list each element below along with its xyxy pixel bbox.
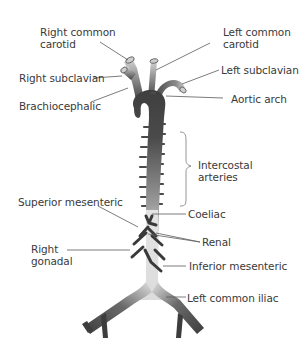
right-common-iliac: [84, 282, 152, 334]
label-left-common-iliac: Left common iliac: [187, 292, 278, 304]
aorta-diagram: Right common carotid Left common carotid…: [0, 0, 301, 352]
label-right-gonadal: Right gonadal: [31, 243, 73, 267]
label-left-common-carotid: Left common carotid: [223, 26, 291, 50]
label-intercostal-arteries: Intercostal arteries: [198, 159, 252, 183]
label-superior-mesenteric: Superior mesenteric: [18, 196, 123, 208]
label-brachiocephalic: Brachiocephalic: [19, 100, 101, 112]
label-right-subclavian: Right subclavian: [19, 72, 105, 84]
label-left-subclavian: Left subclavian: [221, 64, 299, 76]
label-inferior-mesenteric: Inferior mesenteric: [189, 260, 287, 272]
label-right-common-carotid: Right common carotid: [40, 26, 116, 50]
label-coeliac: Coeliac: [188, 208, 226, 220]
label-renal: Renal: [202, 236, 231, 248]
label-aortic-arch: Aortic arch: [231, 93, 287, 105]
